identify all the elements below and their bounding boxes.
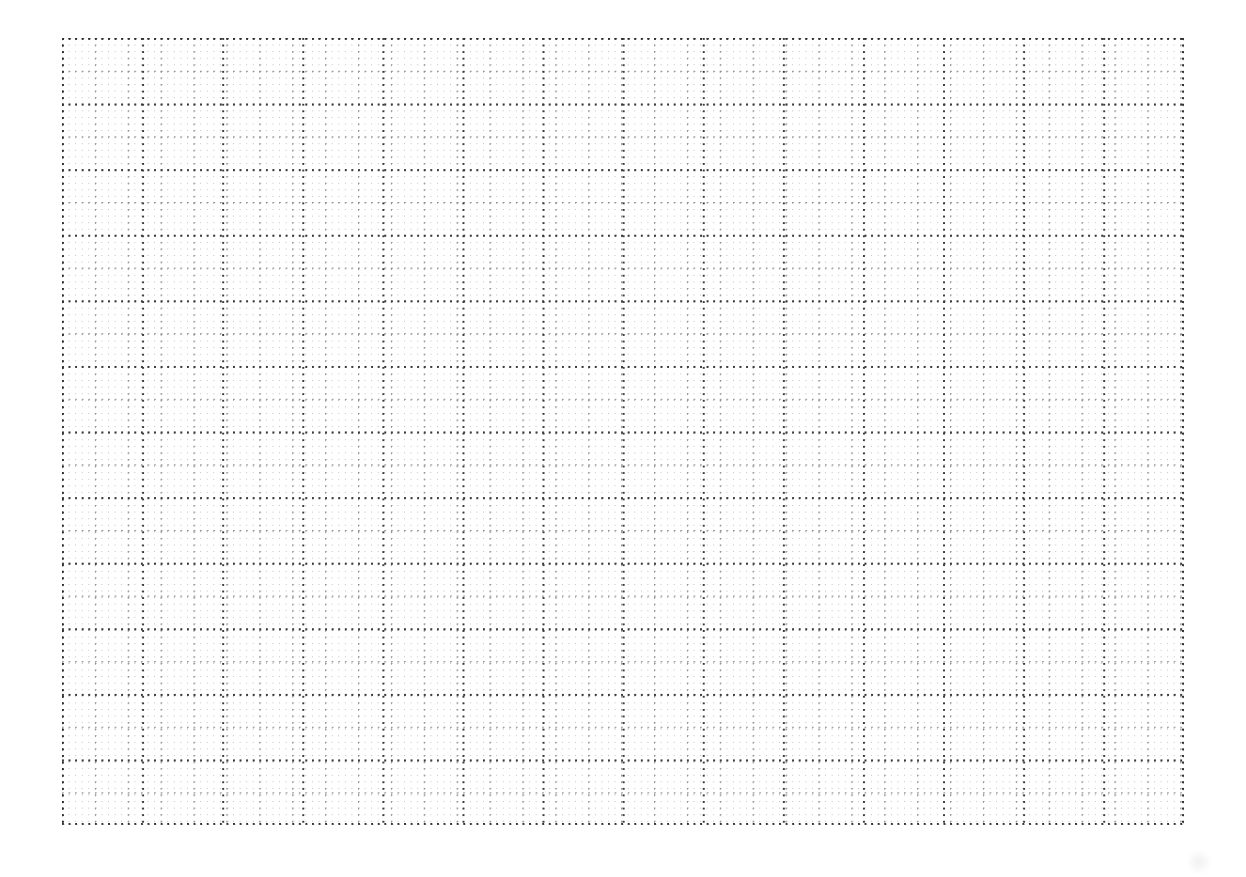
page-canvas [0, 0, 1246, 877]
dotted-grid [62, 38, 1184, 825]
grid-border-bottom [62, 823, 1184, 825]
grid-border-left [62, 38, 64, 825]
scan-artifact-smudge [1186, 849, 1212, 875]
grid-border-right [1182, 38, 1184, 825]
grid-heavy-horizontal-dots-layer [62, 38, 1184, 825]
grid-border-top [62, 38, 1184, 40]
